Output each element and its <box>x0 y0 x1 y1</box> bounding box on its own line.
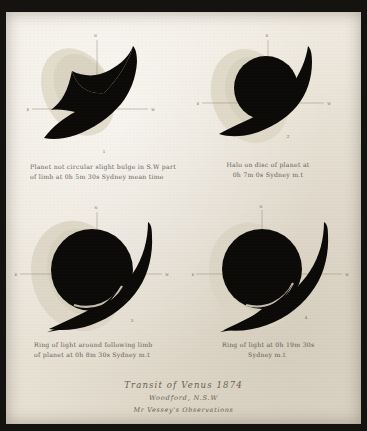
caption-line-1a: Planet not circular slight bulge in S.W … <box>30 162 176 172</box>
figure-caption-2: Halo on disc of planet at 0h 7m 0s Sydne… <box>192 160 344 179</box>
figure-caption-4: Ring of light at 0h 19m 30s Sydney m.t <box>222 340 314 359</box>
venus-disc-2 <box>234 56 298 120</box>
caption-line-3a: Ring of light around following limb <box>34 340 153 350</box>
figure-drawing-4: N E W 4 <box>190 204 356 342</box>
screenshot-root: N E W 1 Planet not circular slight bulge… <box>0 0 367 431</box>
figure-number-3: 3 <box>131 318 134 323</box>
figure-number-2: 2 <box>287 134 290 139</box>
axis-label-west-1: W <box>151 108 155 112</box>
figure-number-1: 1 <box>103 149 106 154</box>
axis-label-north-4: N <box>260 205 263 209</box>
venus-disc-4 <box>222 229 302 309</box>
figure-panel-2: N E W 2 Halo on disc of planet at 0h 7m … <box>192 30 344 160</box>
figure-caption-3: Ring of light around following limb of p… <box>34 340 153 359</box>
axis-label-north-2: N <box>266 34 269 38</box>
axis-label-east-2: E <box>197 102 200 106</box>
axis-label-north-3: N <box>95 206 98 210</box>
axis-label-east-4: E <box>192 273 195 277</box>
caption-line-3b: of planet at 0h 8m 30s Sydney m.t <box>34 350 153 360</box>
plate-observer: Mr Vessey's Observations <box>6 406 361 414</box>
figure-drawing-3: N E W 3 <box>12 204 178 342</box>
figure-caption-1: Planet not circular slight bulge in S.W … <box>30 162 176 181</box>
axis-label-west-4: W <box>345 273 349 277</box>
title-block: Transit of Venus 1874 Woodford, N.S.W Mr… <box>6 380 361 414</box>
axis-label-west-2: W <box>327 102 331 106</box>
caption-line-4b: Sydney m.t <box>248 350 314 360</box>
plate-location: Woodford, N.S.W <box>6 394 361 402</box>
figure-drawing-2: N E W 2 <box>192 30 344 160</box>
venus-disc-3 <box>51 229 133 311</box>
caption-line-4a: Ring of light at 0h 19m 30s <box>222 340 314 350</box>
figure-panel-1: N E W 1 Planet not circular slight bulge… <box>20 30 170 160</box>
figure-panel-4: N E W 4 Ring of light at 0h 19m 30s Sydn… <box>190 204 356 342</box>
astronomical-plate: N E W 1 Planet not circular slight bulge… <box>6 12 361 424</box>
figure-drawing-1: N E W 1 <box>20 30 170 160</box>
axis-label-east-1: E <box>27 108 30 112</box>
figure-panel-3: N E W 3 Ring of light around following l… <box>12 204 178 342</box>
plate-title: Transit of Venus 1874 <box>6 380 361 390</box>
caption-line-1b: of limb at 0h 5m 30s Sydney mean time <box>30 172 176 182</box>
caption-line-2b: 0h 7m 0s Sydney m.t <box>192 170 344 180</box>
caption-line-2a: Halo on disc of planet at <box>192 160 344 170</box>
axis-label-north-1: N <box>94 34 97 38</box>
axis-label-west-3: W <box>165 273 169 277</box>
figure-number-4: 4 <box>305 315 308 320</box>
axis-label-east-3: E <box>15 273 18 277</box>
